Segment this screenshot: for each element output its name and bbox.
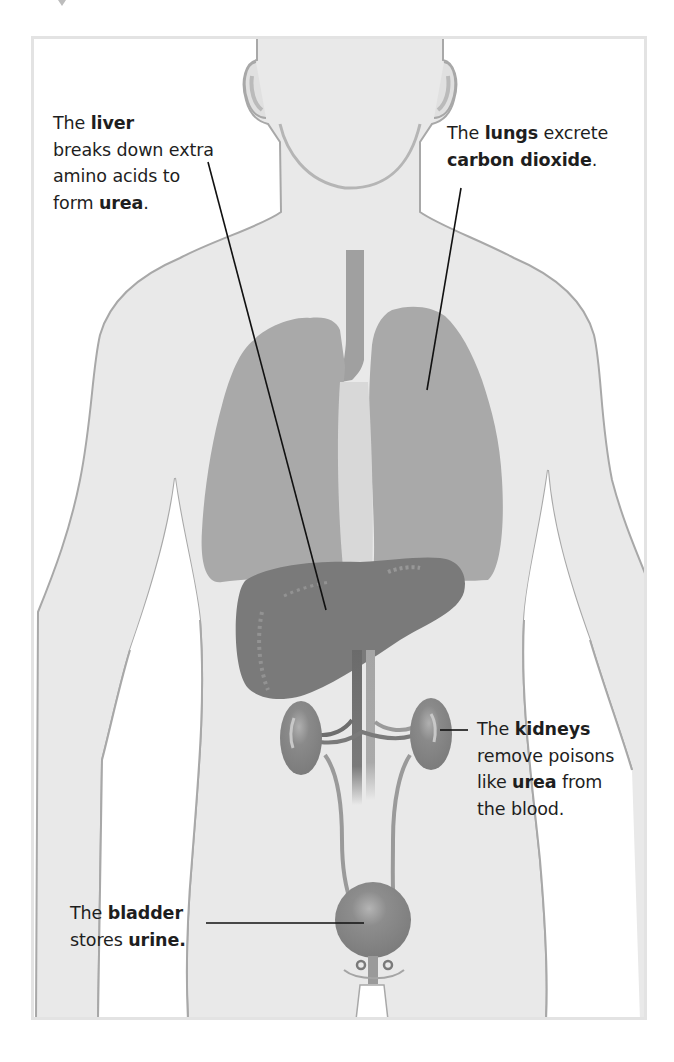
urea-term: urea [512,772,556,792]
kidneys-label: The kidneys remove poisons like urea fro… [477,716,614,822]
lungs-label: The lungs excrete carbon dioxide. [447,120,608,173]
liver-label: The liver breaks down extra amino acids … [53,110,214,216]
left-kidney [280,701,322,775]
kidneys-term: kidneys [515,719,591,739]
aorta [352,650,362,805]
liver-term: liver [91,113,134,133]
urethra [368,956,378,984]
urine-term: urine. [128,930,185,950]
right-kidney [410,698,452,770]
trachea [346,250,364,320]
bladder-label: The bladder stores urine. [70,900,186,953]
lungs-term: lungs [485,123,538,143]
diagram-canvas: The liver breaks down extra amino acids … [0,0,674,1062]
vena-cava [366,650,375,800]
bladder [335,882,411,958]
legs-gap [356,985,388,1020]
carbon-dioxide-term: carbon dioxide [447,150,592,170]
bladder-term: bladder [108,903,183,923]
urea-term: urea [99,193,143,213]
